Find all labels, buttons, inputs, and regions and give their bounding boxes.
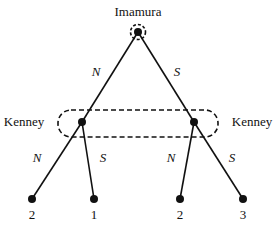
player-label-kenney-left: Kenney xyxy=(4,114,45,129)
action-label-left-N: N xyxy=(32,150,43,165)
action-label-left-S: S xyxy=(100,150,107,165)
payoff-4: 3 xyxy=(240,207,247,222)
payoff-1: 2 xyxy=(29,207,36,222)
leaf-node-2 xyxy=(90,195,98,203)
player-label-imamura: Imamura xyxy=(115,4,162,19)
root-node xyxy=(134,28,142,36)
action-label-root-S: S xyxy=(174,64,181,79)
edge-root-S xyxy=(138,32,194,122)
leaf-node-3 xyxy=(176,195,184,203)
kenney-right-node xyxy=(190,118,198,126)
leaf-node-4 xyxy=(239,195,247,203)
action-label-right-S: S xyxy=(229,150,236,165)
action-label-right-N: N xyxy=(166,150,177,165)
kenney-left-node xyxy=(78,118,86,126)
player-label-kenney-right: Kenney xyxy=(232,114,273,129)
leaf-node-1 xyxy=(28,195,36,203)
edge-right-N xyxy=(180,122,194,199)
payoff-2: 1 xyxy=(91,207,98,222)
action-label-root-N: N xyxy=(91,64,102,79)
edge-left-S xyxy=(82,122,94,199)
edge-right-S xyxy=(194,122,243,199)
payoff-3: 2 xyxy=(177,207,184,222)
game-tree-diagram: Imamura Kenney Kenney N S N S N S 2 1 2 … xyxy=(0,0,274,231)
edge-root-N xyxy=(82,32,138,122)
